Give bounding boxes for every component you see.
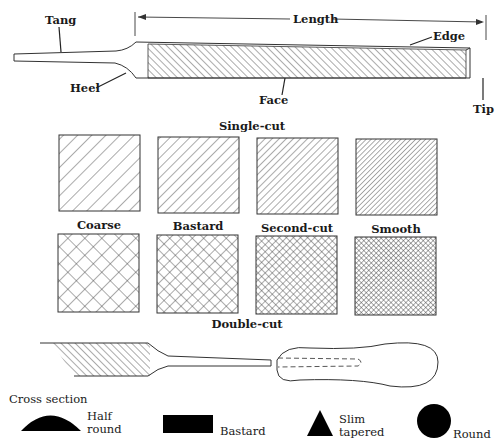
double-cut-second-cut [256,236,337,314]
label-length: Length [293,12,339,26]
file-anatomy-diagram: Tang Heel Length Edge Face Tip Single-cu… [0,0,502,447]
label-tang: Tang [45,13,76,27]
single-cut-second-cut [257,138,338,214]
triangle-shape [307,410,333,436]
cross-section-title: Cross section [9,392,88,406]
single-cut-coarse [59,135,140,211]
single-cut-swatches [59,135,437,215]
file-with-handle [40,343,438,387]
single-cut-smooth [356,139,437,215]
label-half: Half [87,409,113,423]
grade-label-coarse: Coarse [77,218,121,232]
circle-shape [417,404,451,438]
label-tip: Tip [473,102,494,116]
double-cut-title: Double-cut [211,317,283,331]
half-round-shape [21,416,81,432]
grade-label-bastard: Bastard [173,219,224,233]
rectangle-shape [163,415,213,433]
grade-label-second-cut: Second-cut [261,221,334,235]
single-cut-bastard [158,137,239,213]
label-tapered: tapered [339,425,385,439]
double-cut-smooth [355,237,436,315]
label-face: Face [259,93,288,107]
label-heel: Heel [70,81,100,95]
label-slim: Slim [339,412,365,426]
label-round: Round [453,427,491,441]
single-cut-title: Single-cut [219,119,286,133]
double-cut-swatches [58,234,436,315]
double-cut-coarse [58,234,139,312]
label-bastard: Bastard [220,424,266,438]
label-edge: Edge [433,29,465,43]
grade-label-smooth: Smooth [371,222,421,236]
label-round-1: round [87,422,122,436]
double-cut-bastard [157,235,238,313]
